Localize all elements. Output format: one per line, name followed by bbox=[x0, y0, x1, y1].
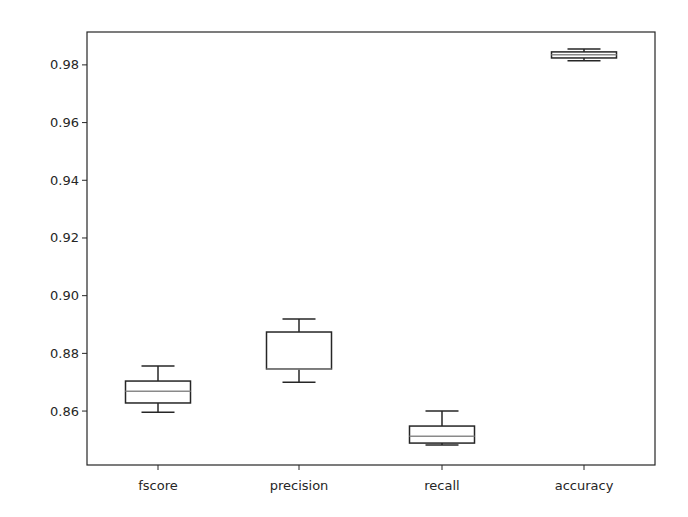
x-tick-label-recall: recall bbox=[424, 478, 459, 493]
x-axis: fscoreprecisionrecallaccuracy bbox=[138, 465, 613, 493]
y-tick-label: 0.92 bbox=[50, 230, 79, 245]
y-tick-label: 0.90 bbox=[50, 288, 79, 303]
y-tick-label: 0.94 bbox=[50, 173, 79, 188]
y-tick-label: 0.96 bbox=[50, 115, 79, 130]
y-tick-label: 0.88 bbox=[50, 346, 79, 361]
x-tick-label-fscore: fscore bbox=[138, 478, 178, 493]
y-axis: 0.860.880.900.920.940.960.98 bbox=[50, 57, 87, 418]
box-plot-chart: 0.860.880.900.920.940.960.98 fscorepreci… bbox=[0, 0, 688, 517]
y-tick-label: 0.86 bbox=[50, 404, 79, 419]
y-tick-label: 0.98 bbox=[50, 57, 79, 72]
axes-frame bbox=[87, 32, 655, 465]
x-tick-label-accuracy: accuracy bbox=[555, 478, 614, 493]
plot-area bbox=[87, 32, 655, 465]
x-tick-label-precision: precision bbox=[270, 478, 329, 493]
